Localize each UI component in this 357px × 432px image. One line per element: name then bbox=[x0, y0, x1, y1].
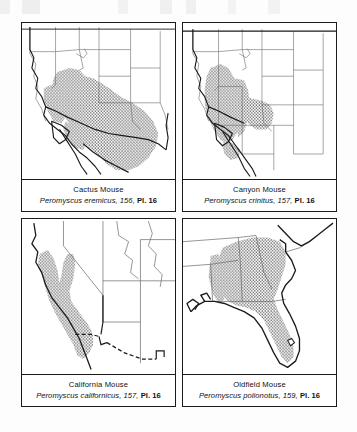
map-svg-canyon-mouse bbox=[183, 23, 336, 179]
scientific-line: Peromyscus crinitus, 157, Pl. 16 bbox=[186, 196, 333, 205]
map-cactus-mouse bbox=[22, 23, 175, 180]
page-number: 159 bbox=[283, 391, 296, 400]
range-map-panel-oldfield-mouse: Oldfield Mouse Peromyscus polionotus, 15… bbox=[182, 218, 337, 407]
scientific-line: Peromyscus eremicus, 156, Pl. 16 bbox=[25, 196, 172, 205]
caption-oldfield-mouse: Oldfield Mouse Peromyscus polionotus, 15… bbox=[183, 375, 336, 406]
page-number: 157 bbox=[124, 391, 137, 400]
scan-artifact-strip bbox=[0, 0, 357, 14]
common-name: Cactus Mouse bbox=[25, 185, 172, 194]
map-oldfield-mouse bbox=[183, 219, 336, 375]
plate-reference: Pl. 16 bbox=[141, 391, 161, 400]
caption-cactus-mouse: Cactus Mouse Peromyscus eremicus, 156, P… bbox=[22, 180, 175, 211]
scientific-line: Peromyscus californicus, 157, Pl. 16 bbox=[25, 391, 172, 400]
caption-canyon-mouse: Canyon Mouse Peromyscus crinitus, 157, P… bbox=[183, 180, 336, 211]
scientific-name: Peromyscus crinitus bbox=[204, 196, 273, 205]
map-svg-oldfield-mouse bbox=[183, 219, 336, 374]
scientific-name: Peromyscus polionotus bbox=[199, 391, 279, 400]
map-svg-california-mouse bbox=[22, 219, 175, 374]
scientific-name: Peromyscus eremicus bbox=[40, 196, 116, 205]
page-number: 156 bbox=[120, 196, 133, 205]
common-name: Oldfield Mouse bbox=[186, 380, 333, 389]
map-california-mouse bbox=[22, 219, 175, 375]
plate-reference: Pl. 16 bbox=[137, 196, 157, 205]
range-map-panel-california-mouse: California Mouse Peromyscus californicus… bbox=[21, 218, 176, 407]
scientific-line: Peromyscus polionotus, 159, Pl. 16 bbox=[186, 391, 333, 400]
scientific-name: Peromyscus californicus bbox=[36, 391, 119, 400]
plate-reference: Pl. 16 bbox=[295, 196, 315, 205]
map-canyon-mouse bbox=[183, 23, 336, 180]
page-number: 157 bbox=[277, 196, 290, 205]
range-map-panel-canyon-mouse: Canyon Mouse Peromyscus crinitus, 157, P… bbox=[182, 22, 337, 212]
map-svg-cactus-mouse bbox=[22, 23, 175, 179]
caption-california-mouse: California Mouse Peromyscus californicus… bbox=[22, 375, 175, 406]
common-name: California Mouse bbox=[25, 380, 172, 389]
plate-reference: Pl. 16 bbox=[300, 391, 320, 400]
range-map-plate-grid: Cactus Mouse Peromyscus eremicus, 156, P… bbox=[21, 22, 337, 407]
range-map-panel-cactus-mouse: Cactus Mouse Peromyscus eremicus, 156, P… bbox=[21, 22, 176, 212]
common-name: Canyon Mouse bbox=[186, 185, 333, 194]
